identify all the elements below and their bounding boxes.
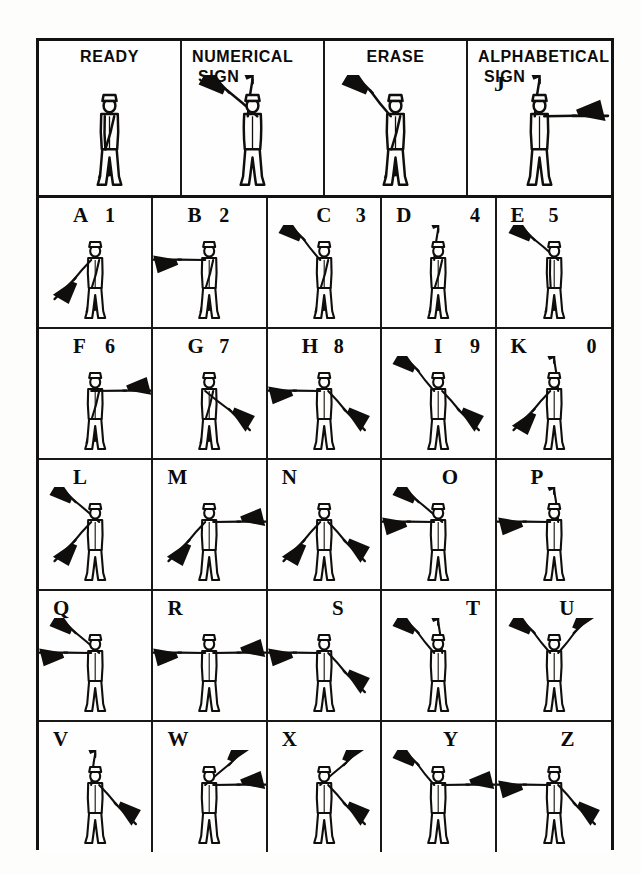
letter-label-k: K [511, 336, 528, 357]
semaphore-cell-r: R [153, 591, 267, 720]
semaphore-cell-c: C3 [268, 198, 382, 327]
semaphore-figure-u [497, 618, 611, 718]
number-label-7: 7 [219, 336, 230, 356]
number-label-3: 3 [356, 205, 367, 225]
semaphore-figure-a [39, 225, 151, 325]
semaphore-cell-q: Q [39, 591, 153, 720]
semaphore-cell-t: T [382, 591, 496, 720]
letter-label-p: P [531, 467, 544, 488]
semaphore-cell-n: N [268, 460, 382, 589]
semaphore-cell-m: M [153, 460, 267, 589]
letter-row-4: VWXYZ [39, 722, 611, 852]
semaphore-cell-o: O [382, 460, 496, 589]
number-label-9: 9 [470, 336, 481, 356]
semaphore-figure-n [268, 487, 380, 587]
semaphore-cell-v: V [39, 722, 153, 852]
semaphore-figure-c [268, 225, 380, 325]
letter-label-w: W [167, 729, 189, 750]
semaphore-figure-w [153, 750, 265, 850]
semaphore-cell-y: Y [382, 722, 496, 852]
letter-label-e: E [511, 205, 526, 226]
semaphore-cell-a: A1 [39, 198, 153, 327]
letter-label-q: Q [53, 598, 70, 619]
semaphore-figure-m [153, 487, 265, 587]
number-label-4: 4 [470, 205, 481, 225]
special-cell-ready: READY [39, 41, 182, 195]
number-label-5: 5 [549, 205, 560, 225]
letter-label-s: S [332, 598, 344, 619]
semaphore-cell-i: I9 [382, 329, 496, 458]
letter-label-d: D [396, 205, 412, 226]
semaphore-figure-p [497, 487, 611, 587]
number-label-0: 0 [586, 336, 597, 356]
semaphore-cell-l: L [39, 460, 153, 589]
letter-label-l: L [73, 467, 88, 488]
letter-label-o: O [442, 467, 459, 488]
semaphore-cell-d: D4 [382, 198, 496, 327]
number-label-6: 6 [105, 336, 116, 356]
special-cell-alphabetical-sign: ALPHABETICALSIGNJ [468, 41, 611, 195]
semaphore-figure-v [39, 750, 151, 850]
letter-row-3: QRSTU [39, 591, 611, 722]
semaphore-figure-k [497, 356, 611, 456]
semaphore-figure-x [268, 750, 380, 850]
semaphore-cell-f: F6 [39, 329, 153, 458]
semaphore-cell-e: E5 [497, 198, 611, 327]
semaphore-cell-h: H8 [268, 329, 382, 458]
semaphore-cell-z: Z [497, 722, 611, 852]
letter-label-h: H [302, 336, 319, 357]
semaphore-figure-e [497, 225, 611, 325]
number-label-2: 2 [219, 205, 230, 225]
special-title-erase: ERASE [325, 47, 466, 67]
semaphore-figure-ready [39, 75, 180, 193]
letter-row-1: F6G7H8I9K0 [39, 329, 611, 460]
semaphore-figure-s [268, 618, 380, 718]
number-label-1: 1 [105, 205, 116, 225]
special-cell-erase: ERASE [325, 41, 468, 195]
letter-label-c: C [316, 205, 332, 226]
letter-row-2: LMNOP [39, 460, 611, 591]
semaphore-figure-f [39, 356, 151, 456]
semaphore-cell-x: X [268, 722, 382, 852]
letter-row-0: A1B2C3D4E5 [39, 198, 611, 329]
letter-label-m: M [167, 467, 187, 488]
letter-label-f: F [73, 336, 86, 357]
letter-label-i: I [434, 336, 443, 357]
semaphore-figure-numerical-sign [182, 75, 323, 193]
semaphore-figure-alphabetical-sign [468, 75, 611, 193]
special-title-ready: READY [39, 47, 180, 67]
letter-label-a: A [73, 205, 89, 226]
semaphore-cell-b: B2 [153, 198, 267, 327]
semaphore-figure-y [382, 750, 494, 850]
letter-label-b: B [187, 205, 202, 226]
semaphore-figure-t [382, 618, 494, 718]
semaphore-figure-q [39, 618, 151, 718]
semaphore-figure-d [382, 225, 494, 325]
letter-label-u: U [559, 598, 575, 619]
semaphore-cell-u: U [497, 591, 611, 720]
letter-label-z: Z [560, 729, 575, 750]
special-signs-row: READYNUMERICALSIGNERASEALPHABETICALSIGNJ [39, 41, 611, 198]
semaphore-cell-p: P [497, 460, 611, 589]
semaphore-figure-g [153, 356, 265, 456]
special-cell-numerical-sign: NUMERICALSIGN [182, 41, 325, 195]
semaphore-chart-page: READYNUMERICALSIGNERASEALPHABETICALSIGNJ… [0, 0, 641, 875]
letter-label-x: X [282, 729, 298, 750]
semaphore-figure-erase [325, 75, 466, 193]
semaphore-figure-o [382, 487, 494, 587]
letter-label-g: G [187, 336, 204, 357]
letter-label-v: V [53, 729, 69, 750]
letter-label-r: R [167, 598, 183, 619]
number-label-8: 8 [334, 336, 345, 356]
semaphore-cell-k: K0 [497, 329, 611, 458]
semaphore-cell-w: W [153, 722, 267, 852]
semaphore-figure-h [268, 356, 380, 456]
letter-label-n: N [282, 467, 298, 488]
semaphore-figure-l [39, 487, 151, 587]
semaphore-figure-i [382, 356, 494, 456]
semaphore-figure-z [497, 750, 611, 850]
letter-label-y: Y [443, 729, 459, 750]
letter-label-t: T [466, 598, 481, 619]
semaphore-cell-g: G7 [153, 329, 267, 458]
semaphore-figure-r [153, 618, 265, 718]
